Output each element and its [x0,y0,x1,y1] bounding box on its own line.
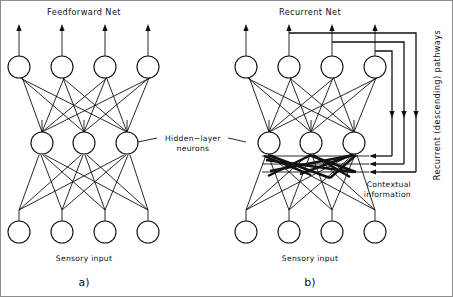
neuron-input [94,221,116,243]
neuron-output [321,56,343,78]
neuron-output [137,56,159,78]
neural-network-diagram: Feedforward Net [0,0,453,297]
neuron-input [321,221,343,243]
neuron-hidden [73,132,95,154]
neuron-hidden [258,132,280,154]
panel-a-title: Feedforward Net [47,7,121,17]
neuron-output [51,56,73,78]
panel-b-title: Recurrent Net [279,7,341,17]
panel-a-input-to-hidden-connections [19,155,148,210]
panel-a-hidden-to-output-connections [21,77,150,132]
panel-b-input-neurons [235,221,386,243]
panel-b-output-neurons [235,56,386,78]
neuron-hidden [116,132,138,154]
panel-b-sensory-input-label: Sensory input [282,254,338,263]
neuron-hidden [343,132,365,154]
neuron-output [94,56,116,78]
neuron-output [8,56,30,78]
neuron-hidden [31,132,53,154]
neuron-output [235,56,257,78]
neuron-input [364,221,386,243]
hidden-label-leader-left [138,138,157,142]
neuron-input [51,221,73,243]
panel-a-sensory-input-label: Sensory input [56,254,112,263]
neuron-input [278,221,300,243]
neuron-output [364,56,386,78]
recurrent-pathways-label: Recurrent (descending) pathways [432,30,442,180]
panel-a-label: a) [78,276,89,289]
neuron-input [137,221,159,243]
panel-b-label: b) [304,276,315,289]
neuron-input [235,221,257,243]
panel-b-contextual-connections [262,155,369,178]
neuron-input [8,221,30,243]
panel-b-input-axons [246,210,375,221]
panel-b-output-axons [243,24,377,56]
panel-a-input-axons [19,210,148,221]
hidden-layer-label-line2: neurons [177,144,210,153]
panel-a-hidden-neurons [31,132,138,154]
hidden-layer-annotation: Hidden−layer neurons [138,134,246,153]
panel-a-input-neurons [8,221,159,243]
contextual-information-label-line2: information [364,190,411,199]
figure-root: Feedforward Net [0,0,453,297]
hidden-layer-label-line1: Hidden−layer [165,134,222,143]
figure-border [1,1,453,297]
contextual-information-label-line1: Contextual [367,180,411,189]
panel-a-output-neurons [8,56,159,78]
hidden-label-leader-right [228,138,246,142]
neuron-hidden [300,132,322,154]
panel-a-output-axons [16,24,150,56]
panel-a: Feedforward Net [8,7,159,289]
panel-b: Recurrent Net [235,7,442,289]
panel-b-hidden-to-output-connections [248,77,377,132]
panel-b-hidden-neurons [258,132,365,154]
neuron-output [278,56,300,78]
